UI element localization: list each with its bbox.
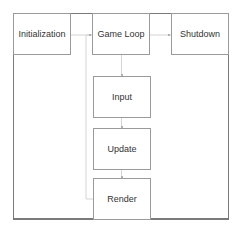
node-label: Update: [107, 144, 136, 154]
node-label: Shutdown: [180, 29, 220, 39]
node-game-loop: Game Loop: [92, 13, 150, 55]
node-initialization: Initialization: [13, 13, 71, 55]
node-label: Input: [112, 92, 132, 102]
node-input: Input: [93, 76, 151, 118]
node-update: Update: [93, 128, 151, 170]
node-render: Render: [93, 178, 151, 220]
node-label: Render: [107, 194, 137, 204]
node-shutdown: Shutdown: [171, 13, 229, 55]
arrow-head-icon: [168, 34, 170, 36]
edge-render-loop-back: [86, 35, 93, 199]
node-label: Game Loop: [97, 29, 144, 39]
arrow-head-icon: [89, 34, 91, 36]
node-label: Initialization: [18, 29, 65, 39]
